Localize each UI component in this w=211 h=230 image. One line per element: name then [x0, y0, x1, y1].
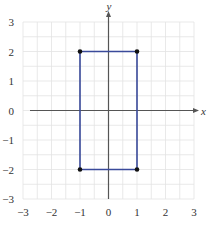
coordinate-plane-chart: −3−2−10123−3−2−10123 x y: [0, 0, 211, 230]
vertex-point: [135, 49, 140, 54]
x-tick-label: 3: [191, 206, 197, 218]
vertex-point: [135, 167, 140, 172]
x-tick-label: 2: [163, 206, 169, 218]
axes: [30, 11, 199, 199]
y-tick-label: 0: [9, 105, 15, 117]
y-tick-label: 3: [9, 16, 15, 28]
tick-labels: −3−2−10123−3−2−10123: [2, 16, 197, 218]
y-tick-label: −3: [2, 193, 14, 205]
x-tick-label: −2: [46, 206, 58, 218]
x-axis-label: x: [200, 105, 206, 117]
y-tick-label: −2: [2, 164, 14, 176]
x-axis-arrow-icon: [193, 108, 199, 113]
x-tick-label: −3: [17, 206, 29, 218]
vertex-point: [78, 49, 83, 54]
x-tick-label: 1: [134, 206, 140, 218]
vertex-point: [78, 167, 83, 172]
y-tick-label: 1: [9, 75, 15, 87]
x-tick-label: −1: [74, 206, 86, 218]
x-tick-label: 0: [106, 206, 112, 218]
y-tick-label: −1: [2, 134, 14, 146]
y-tick-label: 2: [9, 46, 15, 58]
y-axis-label: y: [106, 0, 112, 12]
